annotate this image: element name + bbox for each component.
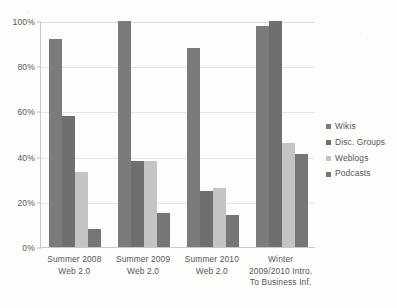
bar-group <box>110 22 179 247</box>
bar <box>200 191 213 248</box>
legend-swatch-icon <box>326 140 331 145</box>
legend-swatch-icon <box>326 124 331 129</box>
bar <box>295 154 308 247</box>
bar <box>62 116 75 247</box>
bar <box>282 143 295 247</box>
bar-group <box>41 22 110 247</box>
x-axis-label: Winter2009/2010 Intro.To Business Inf. <box>234 254 327 289</box>
bar <box>131 161 144 247</box>
plot-area: 0%20%40%60%80%100% <box>40 22 315 248</box>
legend-item-label: Weblogs <box>335 152 368 165</box>
legend-item[interactable]: Podcasts <box>326 167 385 180</box>
legend-item[interactable]: Weblogs <box>326 152 385 165</box>
legend-item[interactable]: Wikis <box>326 120 385 133</box>
x-axis-label-line: 2009/2010 Intro. <box>234 266 327 278</box>
bar-group <box>179 22 248 247</box>
legend-swatch-icon <box>326 172 331 177</box>
bar-group <box>247 22 316 247</box>
bar <box>88 229 101 247</box>
legend-item-label: Podcasts <box>335 167 371 180</box>
bar <box>187 48 200 247</box>
chart-legend: WikisDisc. GroupsWeblogsPodcasts <box>326 120 385 183</box>
legend-item[interactable]: Disc. Groups <box>326 136 385 149</box>
x-axis-label-line: Winter <box>234 254 327 266</box>
bar <box>75 172 88 247</box>
x-axis-label-line: To Business Inf. <box>234 277 327 289</box>
legend-swatch-icon <box>326 156 331 161</box>
bar <box>49 39 62 247</box>
y-axis-tick-mark <box>37 248 41 249</box>
legend-item-label: Disc. Groups <box>335 136 385 149</box>
bar <box>144 161 157 247</box>
bar <box>256 26 269 247</box>
bar <box>213 188 226 247</box>
bar <box>157 213 170 247</box>
bar <box>269 21 282 247</box>
bar <box>226 215 239 247</box>
bar <box>118 21 131 247</box>
legend-item-label: Wikis <box>335 120 356 133</box>
bar-chart: 0%20%40%60%80%100% Summer 2008Web 2.0Sum… <box>0 0 397 308</box>
